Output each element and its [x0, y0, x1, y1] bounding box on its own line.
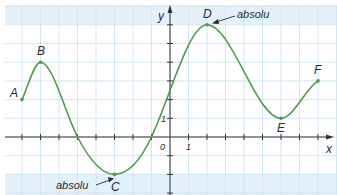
point-label-f: F	[314, 63, 322, 77]
point-label-d: D	[203, 7, 212, 21]
origin-label: 0	[160, 142, 165, 152]
point-d-marker	[205, 23, 209, 27]
annotation-absolute-max: absolu	[237, 8, 269, 20]
top-band	[5, 5, 337, 24]
point-label-e: E	[277, 121, 286, 135]
point-label-a: A	[9, 86, 18, 100]
point-c-marker	[113, 173, 117, 177]
point-label-b: B	[37, 44, 45, 58]
annotation-absolute-min: absolu	[56, 179, 88, 191]
point-f-marker	[316, 79, 320, 83]
x-axis-label: x	[325, 142, 333, 156]
x-unit-label: 1	[186, 142, 191, 152]
y-axis-label: y	[157, 9, 165, 23]
bottom-band	[5, 174, 337, 195]
point-b-marker	[39, 60, 43, 64]
point-label-c: C	[111, 180, 120, 194]
x-axis-arrow-icon	[326, 135, 334, 140]
function-graph: x y 0 1 1 A B C D E F absolu absolu	[0, 0, 337, 195]
y-unit-label: 1	[161, 114, 166, 124]
point-a-marker	[20, 98, 24, 102]
point-e-marker	[279, 117, 283, 121]
